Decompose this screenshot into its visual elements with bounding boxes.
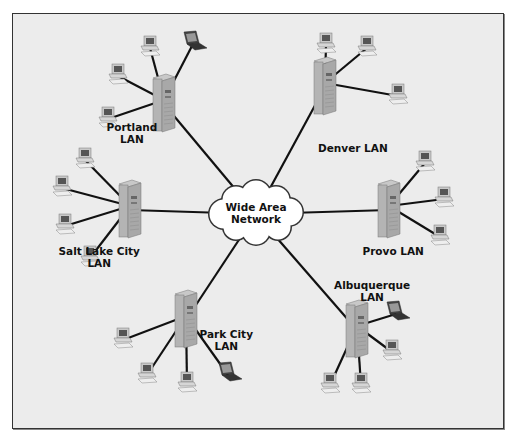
lan-label-portland-line2: LAN — [107, 133, 158, 145]
lan-label-denver: Denver LAN — [318, 142, 388, 154]
wan-hub-label-line1: Wide Area — [226, 201, 287, 213]
desktop-pc-icon-salt-lake-city-1 — [53, 176, 72, 196]
lan-label-provo: Provo LAN — [363, 245, 424, 257]
lan-label-albuquerque-line1: Albuquerque — [334, 279, 410, 291]
lan-label-park-city-line1: Park City — [200, 328, 253, 340]
desktop-pc-icon-provo-2 — [431, 225, 450, 245]
lan-label-salt-lake-city: Salt Lake CityLAN — [59, 245, 140, 269]
desktop-pc-icon-park-city-0 — [114, 328, 133, 348]
desktop-pc-icon-albuquerque-2 — [321, 373, 340, 393]
lan-label-park-city: Park CityLAN — [200, 328, 253, 352]
lan-label-portland: PortlandLAN — [107, 121, 158, 145]
desktop-pc-icon-portland-0 — [109, 64, 128, 84]
server-icon-park-city — [175, 290, 197, 348]
desktop-pc-icon-denver-2 — [389, 84, 408, 104]
desktop-pc-icon-salt-lake-city-0 — [76, 148, 95, 168]
desktop-pc-icon-denver-0 — [317, 33, 336, 53]
desktop-pc-icon-park-city-2 — [178, 372, 197, 392]
desktop-pc-icon-provo-0 — [416, 151, 435, 171]
lan-label-albuquerque: AlbuquerqueLAN — [334, 279, 410, 303]
laptop-icon-portland-2 — [184, 31, 207, 50]
server-icon-salt-lake-city — [119, 180, 141, 238]
server-icon-provo — [378, 180, 400, 238]
laptop-icon-albuquerque-0 — [387, 301, 410, 320]
lan-label-denver-line1: Denver LAN — [318, 142, 388, 154]
laptop-icon-park-city-3 — [219, 362, 242, 381]
lan-label-albuquerque-line2: LAN — [334, 291, 410, 303]
server-icon-denver — [314, 57, 336, 115]
lan-label-salt-lake-city-line1: Salt Lake City — [59, 245, 140, 257]
desktop-pc-icon-albuquerque-1 — [383, 340, 402, 360]
desktop-pc-icon-provo-1 — [435, 187, 454, 207]
desktop-pc-icon-salt-lake-city-2 — [56, 214, 75, 234]
lan-label-portland-line1: Portland — [107, 121, 158, 133]
wan-hub-label: Wide Area Network — [226, 201, 287, 225]
lan-label-park-city-line2: LAN — [200, 340, 253, 352]
lan-label-provo-line1: Provo LAN — [363, 245, 424, 257]
desktop-pc-icon-albuquerque-3 — [352, 373, 371, 393]
desktop-pc-icon-denver-1 — [358, 36, 377, 56]
desktop-pc-icon-portland-1 — [141, 36, 160, 56]
wan-hub-label-line2: Network — [226, 213, 287, 225]
lan-label-salt-lake-city-line2: LAN — [59, 257, 140, 269]
server-icon-albuquerque — [346, 300, 368, 358]
